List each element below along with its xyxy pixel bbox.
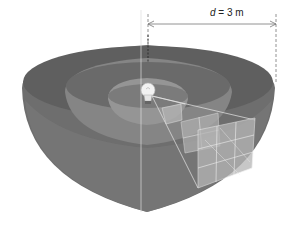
hemisphere-diagram	[0, 0, 294, 225]
distance-label: d = 3 m	[210, 7, 244, 18]
outer-grid-patch	[198, 118, 255, 188]
distance-value: = 3 m	[216, 7, 244, 18]
